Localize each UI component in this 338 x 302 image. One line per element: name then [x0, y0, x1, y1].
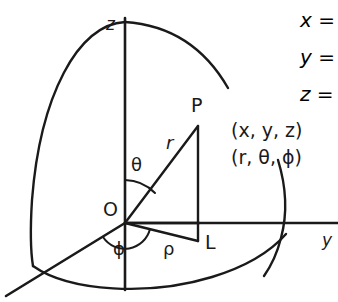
point-p-label: P	[191, 96, 202, 115]
spherical-tuple-label: (r, θ, ϕ)	[231, 148, 302, 167]
spherical-coordinates-diagram: z y P O L r ρ θ ϕ (x, y, z) (r, θ, ϕ) x …	[0, 0, 338, 302]
meridian-arc-right-upper	[125, 22, 228, 88]
phi-label: ϕ	[113, 240, 125, 258]
cartesian-tuple-label: (x, y, z)	[231, 121, 302, 140]
radius-label: r	[166, 134, 173, 152]
meridian-arc-left	[31, 22, 125, 266]
equation-x-line: x =	[300, 8, 335, 32]
foot-point-l-label: L	[205, 233, 216, 252]
equator-arc-bottom	[33, 234, 286, 289]
rho-segment-OL	[125, 223, 198, 241]
meridian-arc-right-lower	[264, 160, 285, 276]
theta-label: θ	[131, 156, 142, 174]
origin-label: O	[103, 200, 118, 219]
rho-label: ρ	[163, 240, 174, 258]
y-axis-label: y	[322, 232, 332, 249]
z-axis-label: z	[106, 16, 115, 33]
equations-block: x = y = z =	[300, 8, 335, 119]
equation-z-line: z =	[300, 82, 335, 106]
x-axis	[6, 223, 125, 296]
equation-y-line: y =	[300, 45, 335, 69]
